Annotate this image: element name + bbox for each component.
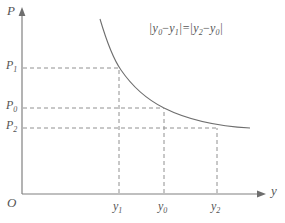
- price-tick-p2-sub: 2: [13, 125, 17, 134]
- equal-spacing-annotation: |y0−y1|=|y2−y0|: [149, 21, 223, 36]
- annotation-right-a-sub: 2: [199, 28, 203, 37]
- annotation-left-b-base: y: [169, 21, 175, 35]
- demand-curve-figure: P y O P1 P0 P2 y1 y0 y2 |y0−y1|=|y2−y0|: [0, 0, 285, 223]
- annotation-left-a-sub: 0: [158, 28, 162, 37]
- price-tick-p1: P1: [6, 59, 17, 71]
- y-axis-arrowhead: [19, 7, 26, 16]
- y-axis-label: P: [7, 4, 15, 17]
- annotation-right-bar: |: [220, 21, 224, 35]
- annotation-equals: =: [183, 21, 190, 35]
- quantity-tick-y2-sub: 2: [216, 206, 220, 215]
- price-tick-p2: P2: [6, 119, 17, 131]
- price-tick-p1-sub: 1: [13, 65, 17, 74]
- quantity-tick-y0-sub: 0: [163, 206, 167, 215]
- x-axis-arrowhead: [257, 191, 266, 198]
- annotation-minus-2: −: [203, 21, 210, 35]
- quantity-tick-y1-sub: 1: [118, 206, 122, 215]
- annotation-left-b-sub: 1: [175, 28, 179, 37]
- figure-canvas: [0, 0, 285, 223]
- price-tick-p0-sub: 0: [13, 105, 17, 114]
- x-axis-label: y: [271, 184, 277, 197]
- price-tick-p0: P0: [6, 99, 17, 111]
- quantity-tick-y1: y1: [113, 200, 122, 212]
- quantity-tick-y2: y2: [211, 200, 220, 212]
- origin-label: O: [7, 196, 16, 209]
- annotation-right-a-base: y: [193, 21, 199, 35]
- quantity-tick-y0: y0: [158, 200, 167, 212]
- annotation-right-b-sub: 0: [215, 28, 219, 37]
